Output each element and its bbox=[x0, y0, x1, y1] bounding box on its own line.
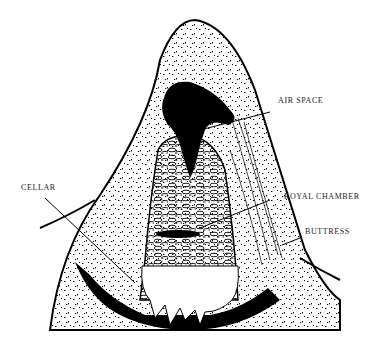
royal-chamber-shape bbox=[156, 230, 200, 238]
termite-mound-diagram: AIR SPACE ROYAL CHAMBER BUTTRESS CELLAR bbox=[0, 0, 375, 356]
mound-drawing bbox=[0, 0, 375, 356]
label-buttress: BUTTRESS bbox=[305, 227, 350, 236]
label-air-space: AIR SPACE bbox=[278, 96, 323, 105]
label-royal-chamber: ROYAL CHAMBER bbox=[284, 192, 360, 201]
label-cellar: CELLAR bbox=[21, 183, 56, 192]
